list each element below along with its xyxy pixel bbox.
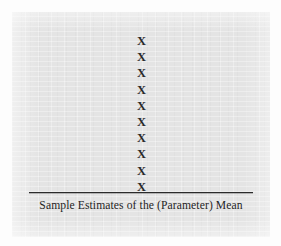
data-point-mark: X	[135, 130, 149, 146]
axis-caption-label: Sample Estimates of the (Parameter) Mean	[14, 198, 268, 213]
data-point-mark: X	[135, 146, 149, 162]
horizontal-axis-line	[29, 192, 253, 193]
data-point-mark: X	[135, 49, 149, 65]
figure-screenshot: X X X X X X X X X X Sample Estimates of …	[0, 0, 281, 246]
data-point-mark: X	[135, 82, 149, 98]
data-point-mark: X	[135, 65, 149, 81]
data-point-mark: X	[135, 163, 149, 179]
data-point-mark: X	[135, 114, 149, 130]
data-point-mark: X	[135, 98, 149, 114]
data-point-mark: X	[135, 33, 149, 49]
data-point-column: X X X X X X X X X X	[0, 33, 281, 195]
